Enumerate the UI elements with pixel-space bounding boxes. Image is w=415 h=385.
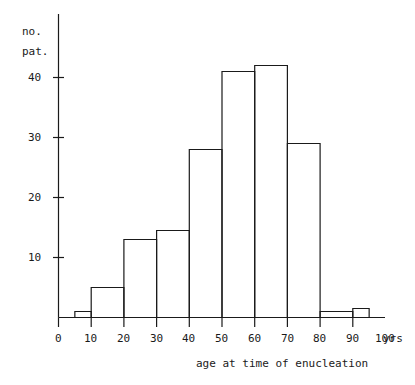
x-tick-label-80: 80 <box>313 333 326 344</box>
y-tick-label-30: 30 <box>28 132 41 143</box>
x-tick-label-30: 30 <box>150 333 163 344</box>
histogram-figure: no. pat. 10 20 30 40 0 10 20 30 40 50 60… <box>0 0 415 385</box>
y-tick-label-40: 40 <box>28 72 41 83</box>
histogram-plot-area <box>0 0 415 385</box>
histogram-bar <box>255 66 288 318</box>
x-tick-label-60: 60 <box>248 333 261 344</box>
y-tick-label-10: 10 <box>28 252 41 263</box>
histogram-bar <box>222 72 255 318</box>
x-axis-title: age at time of enucleation <box>196 358 368 369</box>
histogram-bars <box>75 66 369 318</box>
x-tick-label-0: 0 <box>55 333 62 344</box>
histogram-bar <box>157 231 190 318</box>
x-tick-label-90: 90 <box>346 333 359 344</box>
x-tick-label-70: 70 <box>281 333 294 344</box>
histogram-bar <box>287 144 320 318</box>
histogram-bar <box>91 288 124 318</box>
histogram-bar <box>75 312 91 318</box>
x-tick-label-20: 20 <box>117 333 130 344</box>
y-axis-label-line-2: pat. <box>22 46 49 57</box>
y-axis-label-line-1: no. <box>22 26 42 37</box>
y-tick-label-20: 20 <box>28 192 41 203</box>
x-tick-label-40: 40 <box>182 333 195 344</box>
x-tick-marks <box>59 318 353 328</box>
histogram-bar <box>353 309 369 318</box>
histogram-bar <box>124 240 157 318</box>
histogram-bar <box>320 312 353 318</box>
x-tick-label-50: 50 <box>215 333 228 344</box>
x-axis-unit-label: yrs <box>383 333 403 344</box>
histogram-bar <box>189 150 222 318</box>
x-tick-label-10: 10 <box>84 333 97 344</box>
